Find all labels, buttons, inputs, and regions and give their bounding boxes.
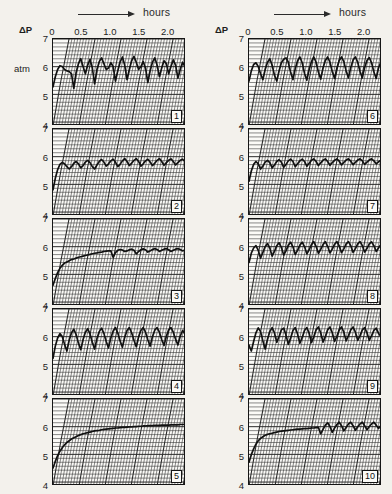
y-tick-p3-1: 6 — [36, 332, 48, 343]
panel-2-graphics — [53, 129, 185, 215]
panel-number-8: 8 — [367, 290, 378, 304]
y-tick-p3-0: 7 — [36, 303, 48, 314]
y-tick-p1-0: 7 — [232, 123, 244, 134]
y-tick-p4-2: 5 — [36, 451, 48, 462]
x-tick-2: 1.0 — [299, 26, 312, 37]
y-tick-p3-0: 7 — [232, 303, 244, 314]
y-tick-p2-1: 6 — [232, 242, 244, 253]
y-tick-p0-2: 5 — [232, 91, 244, 102]
hours-arrow-icon — [274, 9, 334, 21]
panel-5-graphics — [53, 399, 185, 485]
x-tick-labels-left: 00.51.01.52.0 — [0, 26, 196, 38]
chart-panel-1[interactable]: 1 — [52, 38, 185, 125]
x-tick-labels-right: 00.51.01.52.0 — [196, 26, 392, 38]
y-tick-p3-1: 6 — [232, 332, 244, 343]
y-tick-p4-2: 5 — [232, 451, 244, 462]
panel-1-graphics — [53, 39, 185, 125]
y-tick-p1-1: 6 — [36, 152, 48, 163]
chart-panel-8[interactable]: 8 — [248, 218, 381, 305]
panel-9-graphics — [249, 309, 381, 395]
chart-panel-2[interactable]: 2 — [52, 128, 185, 215]
x-tick-0: 0 — [49, 26, 54, 37]
y-tick-p1-0: 7 — [36, 123, 48, 134]
y-tick-p2-2: 5 — [36, 271, 48, 282]
panel-number-9: 9 — [367, 380, 378, 394]
y-tick-p0-2: 5 — [36, 91, 48, 102]
chart-panel-9[interactable]: 9 — [248, 308, 381, 395]
x-tick-4: 2.0 — [357, 26, 370, 37]
y-tick-p4-3: 4 — [232, 480, 244, 491]
y-tick-p0-1: 6 — [232, 62, 244, 73]
y-tick-p0-1: 6 — [36, 62, 48, 73]
panel-4-graphics — [53, 309, 185, 395]
panel-number-4: 4 — [171, 380, 182, 394]
panel-number-6: 6 — [367, 110, 378, 124]
y-axis-unit-label: atm — [14, 63, 30, 74]
chart-panel-3[interactable]: 3 — [52, 218, 185, 305]
y-tick-p3-2: 5 — [36, 361, 48, 372]
y-tick-p4-1: 6 — [36, 422, 48, 433]
chart-panel-6[interactable]: 6 — [248, 38, 381, 125]
panel-number-3: 3 — [171, 290, 182, 304]
panel-number-10: 10 — [362, 470, 378, 484]
left-column: hours ΔP atm 00.51.01.52.0 7654765476547… — [0, 0, 196, 494]
x-tick-3: 1.5 — [132, 26, 145, 37]
y-tick-p2-0: 7 — [36, 213, 48, 224]
y-tick-p2-0: 7 — [232, 213, 244, 224]
x-tick-2: 1.0 — [103, 26, 116, 37]
right-column: hours ΔP 00.51.01.52.0 76547654765476547… — [196, 0, 392, 494]
panel-number-2: 2 — [171, 200, 182, 214]
x-axis-label: hours — [339, 6, 366, 18]
chart-panel-4[interactable]: 4 — [52, 308, 185, 395]
x-axis-label: hours — [143, 6, 170, 18]
panel-number-7: 7 — [367, 200, 378, 214]
y-tick-p2-2: 5 — [232, 271, 244, 282]
y-tick-p2-1: 6 — [36, 242, 48, 253]
y-tick-p4-0: 7 — [232, 393, 244, 404]
figure-chart-recorder-traces: hours ΔP atm 00.51.01.52.0 7654765476547… — [0, 0, 392, 494]
chart-panel-7[interactable]: 7 — [248, 128, 381, 215]
y-tick-p1-1: 6 — [232, 152, 244, 163]
y-tick-p0-0: 7 — [232, 33, 244, 44]
y-tick-p4-3: 4 — [36, 480, 48, 491]
y-tick-p4-0: 7 — [36, 393, 48, 404]
panel-number-5: 5 — [171, 470, 182, 484]
chart-panel-5[interactable]: 5 — [52, 398, 185, 485]
panel-8-graphics — [249, 219, 381, 305]
y-tick-p4-1: 6 — [232, 422, 244, 433]
x-tick-1: 0.5 — [270, 26, 283, 37]
panel-number-1: 1 — [171, 110, 182, 124]
x-tick-0: 0 — [245, 26, 250, 37]
y-tick-p3-2: 5 — [232, 361, 244, 372]
y-tick-p0-0: 7 — [36, 33, 48, 44]
panel-3-graphics — [53, 219, 185, 305]
x-tick-4: 2.0 — [161, 26, 174, 37]
y-tick-p1-2: 5 — [36, 181, 48, 192]
x-tick-3: 1.5 — [328, 26, 341, 37]
panel-6-graphics — [249, 39, 381, 125]
hours-arrow-icon — [78, 9, 138, 21]
x-tick-1: 0.5 — [74, 26, 87, 37]
y-tick-p1-2: 5 — [232, 181, 244, 192]
panel-7-graphics — [249, 129, 381, 215]
chart-panel-10[interactable]: 10 — [248, 398, 381, 485]
